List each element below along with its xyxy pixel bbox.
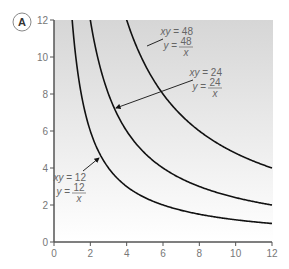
fraction-denominator: x (183, 47, 190, 58)
annotation-equation-lhs: y = (191, 81, 206, 92)
panel-label-badge: A (13, 13, 31, 31)
fraction-numerator: 12 (73, 182, 85, 193)
plot-background (54, 20, 273, 242)
x-tick-label: 4 (124, 248, 130, 259)
x-tick-label: 12 (266, 248, 278, 259)
fraction-denominator: x (212, 88, 219, 99)
x-tick-label: 2 (88, 248, 94, 259)
panel-letter: A (18, 16, 26, 28)
annotation-equation-lhs: y = (162, 40, 177, 51)
y-tick-label: 10 (37, 52, 49, 63)
x-tick-label: 8 (197, 248, 203, 259)
y-tick-label: 0 (42, 237, 48, 248)
x-tick-label: 6 (160, 248, 166, 259)
fraction-numerator: 24 (209, 77, 221, 88)
y-tick-label: 2 (42, 200, 48, 211)
fraction-numerator: 48 (180, 36, 192, 47)
annotation-equation-lhs: y = (55, 186, 70, 197)
hyperbola-chart: A 024681012024681012 xy = 48y =48xxy = 2… (0, 0, 289, 269)
y-tick-label: 8 (42, 89, 48, 100)
y-tick-label: 6 (42, 126, 48, 137)
y-tick-label: 12 (37, 15, 49, 26)
fraction-denominator: x (76, 193, 83, 204)
x-tick-label: 10 (230, 248, 242, 259)
x-tick-label: 0 (51, 248, 57, 259)
y-tick-label: 4 (42, 163, 48, 174)
